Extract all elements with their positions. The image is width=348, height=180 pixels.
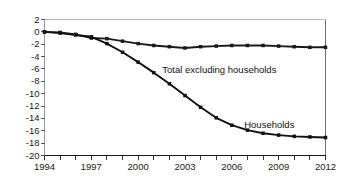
series-marker	[230, 123, 234, 127]
x-tick-label: 2012	[302, 162, 348, 172]
y-tick-label: -12	[26, 101, 40, 111]
series-marker	[308, 46, 312, 50]
y-tick-label: 0	[34, 27, 39, 37]
series-marker	[74, 33, 78, 37]
y-tick-label: -18	[26, 138, 40, 148]
x-tick-label: 1994	[21, 162, 69, 172]
series-marker	[183, 46, 187, 50]
series-marker	[105, 42, 109, 46]
series-marker	[152, 71, 156, 75]
x-tick-label: 1997	[67, 162, 115, 172]
y-tick-label: -14	[26, 113, 40, 123]
series-marker	[43, 30, 47, 34]
x-tick-label: 2003	[161, 162, 209, 172]
series-annotation-label: Households	[244, 120, 294, 130]
y-tick-label: -2	[31, 39, 39, 49]
series-marker	[152, 44, 156, 48]
series-marker	[58, 31, 62, 34]
series-marker	[121, 51, 125, 55]
y-tick-label: -10	[26, 89, 40, 99]
y-tick-label: -8	[31, 76, 39, 86]
x-tick-label: 2006	[208, 162, 256, 172]
series-marker	[199, 106, 203, 110]
series-marker	[308, 135, 312, 139]
series-marker	[261, 132, 265, 136]
y-tick-label: -6	[31, 64, 39, 74]
series-marker	[183, 94, 187, 98]
series-marker	[261, 44, 265, 48]
series-marker	[136, 60, 140, 64]
series-marker	[121, 39, 125, 43]
series-marker	[105, 37, 109, 41]
series-marker	[277, 133, 281, 137]
line-chart-plot	[0, 0, 348, 180]
series-marker	[230, 44, 234, 48]
y-tick-label: -16	[26, 126, 40, 136]
series-marker	[246, 44, 250, 48]
x-tick-label: 2000	[114, 162, 162, 172]
y-tick-label: -4	[31, 52, 39, 62]
series-marker	[214, 116, 218, 120]
series-marker	[324, 46, 328, 50]
series-marker	[293, 45, 297, 49]
x-tick-label: 2009	[255, 162, 303, 172]
series-marker	[168, 82, 172, 86]
series-annotation-label: Total excluding households	[162, 65, 276, 75]
series-line-1	[45, 32, 326, 48]
series-marker	[324, 136, 328, 140]
y-tick-label: 2	[34, 15, 39, 25]
series-marker	[293, 135, 297, 139]
series-marker	[90, 35, 94, 39]
series-marker	[277, 44, 281, 48]
series-marker	[168, 45, 172, 49]
series-marker	[199, 45, 203, 49]
chart-figure: 20-2-4-6-8-10-12-14-16-18-20 19941997200…	[0, 0, 348, 180]
axis-tick-marks	[41, 20, 326, 160]
series-marker	[214, 44, 218, 48]
series-marker	[136, 42, 140, 46]
y-tick-label: -20	[26, 151, 40, 161]
